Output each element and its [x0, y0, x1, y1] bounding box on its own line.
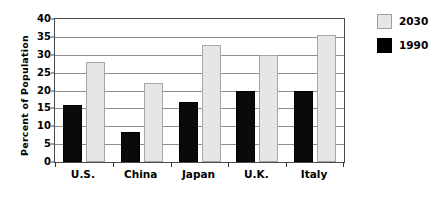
- y-tick-label: 35: [37, 32, 51, 42]
- x-tick-mark: [113, 162, 114, 167]
- chart-legend: 2030 1990: [377, 14, 439, 62]
- x-category-label: China: [124, 168, 157, 180]
- bar-japan-1990: [179, 102, 198, 162]
- bar-chart: Percent of Population 0510152025303540 U…: [0, 0, 443, 197]
- bar-us-1990: [63, 105, 82, 162]
- y-axis-title: Percent of Population: [19, 26, 30, 166]
- legend-label-1990: 1990: [399, 40, 428, 51]
- bar-uk-2030: [259, 55, 278, 162]
- bar-china-1990: [121, 132, 140, 162]
- y-tick-label: 0: [44, 157, 51, 167]
- legend-item-2030: 2030: [377, 14, 439, 29]
- x-category-label: U.K.: [244, 168, 269, 180]
- y-tick-label: 5: [44, 139, 51, 149]
- legend-swatch-1990-icon: [377, 38, 392, 53]
- bar-us-2030: [86, 62, 105, 162]
- bar-china-2030: [144, 83, 163, 162]
- x-tick-mark: [171, 162, 172, 167]
- x-category-label: Italy: [301, 168, 327, 180]
- x-category-label: Japan: [182, 168, 215, 180]
- y-tick-label: 25: [37, 68, 51, 78]
- y-tick-label: 20: [37, 86, 51, 96]
- bar-italy-1990: [294, 91, 313, 163]
- bars-layer: [55, 19, 344, 162]
- x-category-label: U.S.: [71, 168, 95, 180]
- x-tick-mark: [286, 162, 287, 167]
- plot-area: 0510152025303540: [54, 18, 345, 163]
- y-tick-label: 40: [37, 14, 51, 24]
- bar-japan-2030: [202, 45, 221, 162]
- legend-swatch-2030-icon: [377, 14, 392, 29]
- y-tick-label: 30: [37, 50, 51, 60]
- x-tick-mark: [228, 162, 229, 167]
- bar-uk-1990: [236, 91, 255, 163]
- legend-label-2030: 2030: [399, 16, 428, 27]
- y-tick-label: 15: [37, 103, 51, 113]
- y-tick-label: 10: [37, 121, 51, 131]
- legend-item-1990: 1990: [377, 38, 439, 53]
- bar-italy-2030: [317, 35, 336, 162]
- x-tick-mark: [55, 162, 56, 167]
- x-tick-mark: [343, 162, 344, 167]
